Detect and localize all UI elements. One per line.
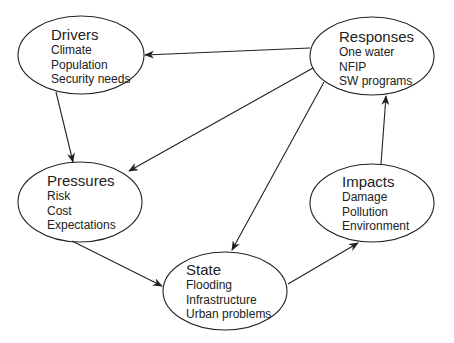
pressures-item: Risk <box>47 189 116 204</box>
edge-drivers-to-pressures <box>56 92 73 162</box>
drivers-node: Drivers Climate Population Security need… <box>51 26 130 87</box>
impacts-item: Pollution <box>342 205 409 220</box>
impacts-item: Environment <box>342 219 409 234</box>
responses-title: Responses <box>339 28 414 45</box>
drivers-title: Drivers <box>51 26 130 43</box>
state-item: Infrastructure <box>186 293 271 308</box>
edge-pressures-to-state <box>72 241 162 286</box>
impacts-item: Damage <box>342 190 409 205</box>
pressures-node: Pressures Risk Cost Expectations <box>47 172 116 233</box>
pressures-item: Expectations <box>47 218 116 233</box>
pressures-item: Cost <box>47 204 116 219</box>
edge-state-to-impacts <box>288 243 358 284</box>
state-node: State Flooding Infrastructure Urban prob… <box>186 261 271 322</box>
edge-responses-to-drivers <box>145 48 310 55</box>
state-title: State <box>186 261 271 278</box>
responses-item: SW programs <box>339 74 414 89</box>
pressures-title: Pressures <box>47 172 116 189</box>
drivers-item: Climate <box>51 43 130 58</box>
drivers-item: Population <box>51 58 130 73</box>
state-item: Flooding <box>186 278 271 293</box>
responses-item: NFIP <box>339 60 414 75</box>
responses-node: Responses One water NFIP SW programs <box>339 28 414 89</box>
edge-impacts-to-responses <box>381 96 386 164</box>
impacts-title: Impacts <box>342 173 409 190</box>
responses-item: One water <box>339 45 414 60</box>
drivers-item: Security needs <box>51 72 130 87</box>
impacts-node: Impacts Damage Pollution Environment <box>342 173 409 234</box>
edge-responses-to-pressures <box>129 68 313 171</box>
state-item: Urban problems <box>186 307 271 322</box>
edge-responses-to-state <box>232 82 324 250</box>
